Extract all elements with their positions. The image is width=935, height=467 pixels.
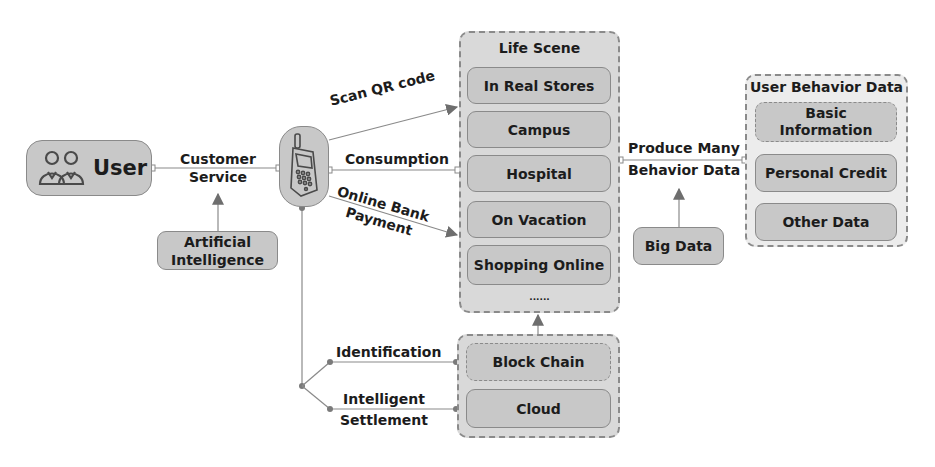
big-data-node[interactable]: Big Data	[633, 227, 724, 265]
life-scene-item-shopping-online[interactable]: Shopping Online	[467, 245, 611, 285]
artificial-intelligence-node[interactable]: Artificial Intelligence	[157, 231, 278, 270]
users-icon	[37, 148, 87, 188]
edge-label-produce-behavior-data: Produce Many Behavior Data	[628, 139, 740, 179]
edge-label-consumption: Consumption	[345, 150, 449, 168]
tech-item-cloud[interactable]: Cloud	[466, 389, 611, 428]
life-scene-item-hospital[interactable]: Hospital	[467, 155, 611, 192]
mobile-phone-icon	[287, 132, 321, 202]
tech-item-block-chain[interactable]: Block Chain	[466, 343, 611, 381]
life-scene-item-in-real-stores[interactable]: In Real Stores	[467, 67, 611, 104]
user-label: User	[93, 159, 147, 177]
life-scene-item-campus[interactable]: Campus	[467, 111, 611, 148]
user-behavior-item-personal-credit[interactable]: Personal Credit	[755, 154, 897, 192]
life-scene-ellipsis: ......	[459, 288, 620, 306]
edge-label-customer-service: Customer Service	[168, 150, 268, 186]
life-scene-title: Life Scene	[461, 40, 618, 56]
edge-label-intelligent-settlement: Intelligent Settlement	[334, 390, 434, 429]
edge-label-identification: Identification	[336, 343, 441, 361]
user-behavior-data-title: User Behavior Data	[747, 79, 906, 95]
user-behavior-item-basic-information[interactable]: Basic Information	[755, 102, 897, 142]
life-scene-item-on-vacation[interactable]: On Vacation	[467, 201, 611, 238]
mobile-phone-node[interactable]	[279, 126, 329, 207]
user-node[interactable]: User	[26, 140, 152, 196]
user-behavior-item-other-data[interactable]: Other Data	[755, 203, 897, 241]
